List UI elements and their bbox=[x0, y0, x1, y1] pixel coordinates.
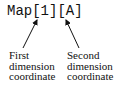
second-dimension-label: Second dimension coordinate bbox=[67, 50, 113, 82]
arrow-second-dimension bbox=[66, 20, 79, 48]
arrow-first-dimension bbox=[23, 20, 37, 48]
first-dimension-label: First dimension coordinate bbox=[9, 50, 55, 82]
